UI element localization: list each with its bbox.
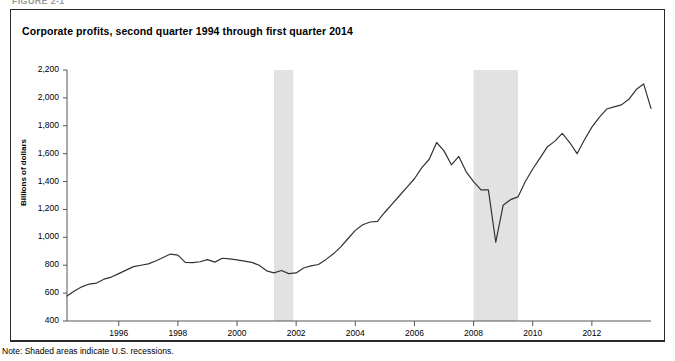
y-axis-tick-label: 1,000	[25, 232, 59, 241]
chart-note: Note: Shaded areas indicate U.S. recessi…	[2, 346, 174, 356]
x-axis-tick-label: 2012	[572, 329, 612, 338]
y-axis-tick-label: 1,800	[25, 121, 59, 130]
data-line-group	[67, 84, 651, 296]
y-axis-tick-label: 600	[25, 288, 59, 297]
y-axis-tick-label: 400	[25, 316, 59, 325]
x-axis-tick-label: 2004	[335, 329, 375, 338]
figure-page: FIGURE 2-1 Corporate profits, second qua…	[0, 0, 675, 361]
y-axis-tick-label: 800	[25, 260, 59, 269]
y-axis-tick-label: 1,600	[25, 149, 59, 158]
x-axis-tick-label: 1998	[158, 329, 198, 338]
x-axis-tick-label: 2002	[276, 329, 316, 338]
chart-plot-area: Billions of dollars 4006008001,0001,2001…	[0, 0, 675, 361]
y-axis-tick-label: 1,400	[25, 177, 59, 186]
x-axis-tick-label: 2010	[513, 329, 553, 338]
line-chart-svg	[0, 0, 675, 361]
y-axis-tick-label: 2,200	[25, 65, 59, 74]
recession-bands-group	[274, 70, 518, 321]
x-axis-tick-label: 2008	[454, 329, 494, 338]
chart-axes-group	[63, 70, 651, 326]
x-axis-tick-label: 2006	[394, 329, 434, 338]
note-divider-rule	[10, 340, 665, 342]
data-series-line	[67, 84, 651, 296]
recession-band	[274, 70, 293, 321]
x-axis-tick-label: 1996	[99, 329, 139, 338]
recession-band	[474, 70, 518, 321]
x-axis-tick-label: 2000	[217, 329, 257, 338]
y-axis-tick-label: 1,200	[25, 204, 59, 213]
y-axis-tick-label: 2,000	[25, 93, 59, 102]
